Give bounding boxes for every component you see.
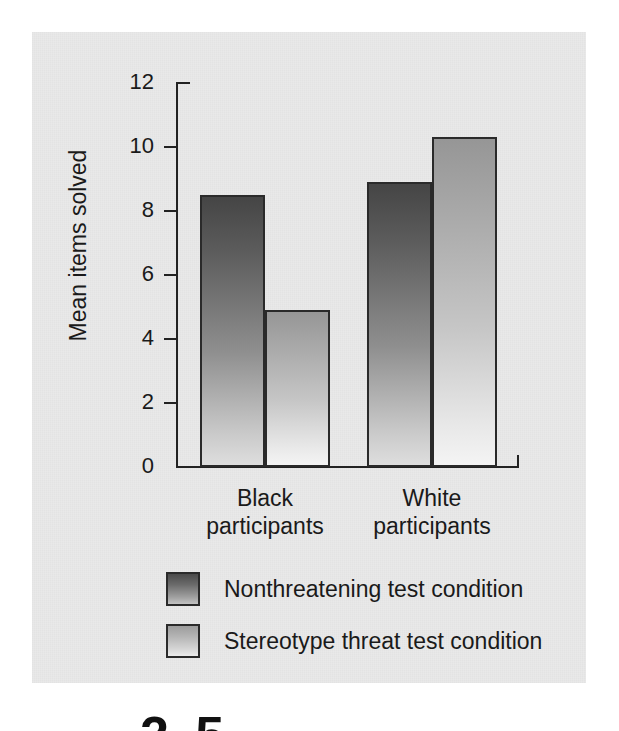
x-axis-group-label-line: participants [332, 512, 532, 540]
bar [200, 195, 265, 467]
y-axis-tick-label: 2 [114, 391, 154, 413]
x-axis-end-cap [517, 455, 519, 466]
legend-label-stereotype-threat: Stereotype threat test condition [224, 628, 542, 655]
y-axis-tick: 4 [32, 338, 178, 340]
y-axis-tick-mark [164, 146, 178, 148]
legend-swatch-nonthreatening-icon [166, 572, 200, 606]
y-axis-tick-label: 6 [114, 263, 154, 285]
legend-item-stereotype-threat: Stereotype threat test condition [166, 624, 542, 658]
y-axis-tick-mark [164, 402, 178, 404]
y-axis-tick-label: 10 [114, 135, 154, 157]
legend-swatch-stereotype-threat-icon [166, 624, 200, 658]
chart-legend: Nonthreatening test condition Stereotype… [166, 572, 542, 676]
legend-label-nonthreatening: Nonthreatening test condition [224, 576, 523, 603]
x-axis-group-label-line: White [332, 484, 532, 512]
y-axis-tick: 10 [32, 146, 178, 148]
x-axis-group-label: Whiteparticipants [332, 484, 532, 540]
y-axis-tick: 6 [32, 274, 178, 276]
figure-panel: 024681012 Mean items solved Blackpartici… [32, 32, 586, 683]
y-axis-tick-mark [164, 210, 178, 212]
bar [367, 182, 432, 467]
y-axis-tick: 2 [32, 402, 178, 404]
page-number-fragment: 2.5 [140, 706, 230, 731]
y-axis-top-cap [176, 82, 190, 84]
y-axis-tick-mark [164, 338, 178, 340]
y-axis-tick-label: 0 [114, 455, 154, 477]
y-axis-tick-mark [164, 274, 178, 276]
y-axis-tick: 0 [32, 466, 178, 468]
y-axis-tick-label: 12 [114, 71, 154, 93]
y-axis-tick: 12 [32, 82, 178, 84]
legend-item-nonthreatening: Nonthreatening test condition [166, 572, 542, 606]
y-axis-title: Mean items solved [65, 96, 92, 396]
bar [432, 137, 497, 467]
y-axis-tick-label: 8 [114, 199, 154, 221]
bar [265, 310, 330, 467]
y-axis-tick: 8 [32, 210, 178, 212]
y-axis-tick-label: 4 [114, 327, 154, 349]
